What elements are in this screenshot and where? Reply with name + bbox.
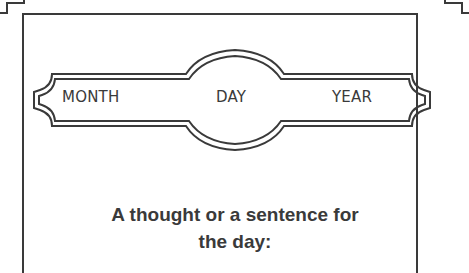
month-label: MONTH (62, 88, 119, 106)
day-label: DAY (216, 88, 246, 106)
year-label: YEAR (332, 88, 372, 106)
prompt-line-2: the day: (100, 228, 370, 255)
prompt-line-1: A thought or a sentence for (100, 201, 370, 228)
daily-thought-prompt: A thought or a sentence for the day: (100, 201, 370, 255)
